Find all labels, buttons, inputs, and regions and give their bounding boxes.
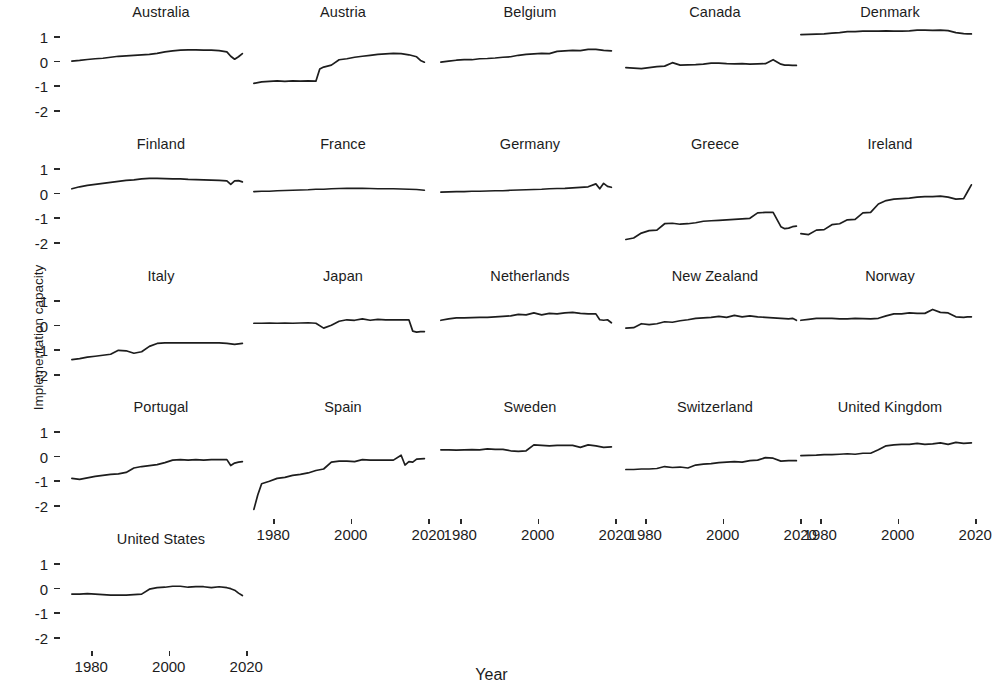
- panel-australia: Australia10-1-2: [68, 26, 254, 122]
- y-tick-label: 0: [20, 450, 48, 465]
- y-tick-label: 0: [20, 582, 48, 597]
- x-tick-label: 1980: [619, 527, 671, 542]
- plot-area: [68, 26, 254, 122]
- plot-area: [797, 290, 983, 386]
- plot-area: [437, 290, 623, 386]
- x-tick-mark: [91, 651, 93, 656]
- panel-italy: Italy10-1-2: [68, 290, 254, 386]
- x-tick-mark: [615, 519, 617, 524]
- panel-netherlands: Netherlands: [437, 290, 623, 386]
- plot-area: [797, 421, 983, 517]
- panel-title: Australia: [68, 4, 254, 20]
- series-line: [72, 460, 243, 480]
- y-tick-mark: [54, 505, 60, 507]
- panel-switzerland: Switzerland198020002020: [622, 421, 808, 517]
- panel-belgium: Belgium: [437, 26, 623, 122]
- plot-area: [250, 421, 436, 517]
- panel-greece: Greece: [622, 158, 808, 254]
- series-line: [254, 53, 425, 83]
- plot-area: [68, 158, 254, 254]
- x-tick-mark: [169, 651, 171, 656]
- series-line: [72, 178, 243, 188]
- plot-area: [797, 26, 983, 122]
- y-tick-mark: [54, 36, 60, 38]
- series-line: [72, 343, 243, 360]
- x-tick-mark: [820, 519, 822, 524]
- x-tick-mark: [723, 519, 725, 524]
- x-tick-mark: [645, 519, 647, 524]
- y-tick-mark: [54, 637, 60, 639]
- x-tick-label: 2020: [220, 659, 272, 674]
- y-tick-mark: [54, 374, 60, 376]
- y-tick-mark: [54, 217, 60, 219]
- panel-title: United States: [68, 531, 254, 547]
- x-tick-mark: [351, 519, 353, 524]
- y-tick-mark: [54, 612, 60, 614]
- panel-title: Norway: [797, 268, 983, 284]
- y-tick-label: 1: [20, 162, 48, 177]
- y-tick-label: -1: [20, 474, 48, 489]
- y-tick-mark: [54, 588, 60, 590]
- panel-title: Italy: [68, 268, 254, 284]
- plot-area: [622, 26, 808, 122]
- panel-austria: Austria: [250, 26, 436, 122]
- plot-area: [68, 290, 254, 386]
- y-tick-label: -1: [20, 79, 48, 94]
- y-tick-mark: [54, 85, 60, 87]
- panel-finland: Finland10-1-2: [68, 158, 254, 254]
- panel-title: France: [250, 136, 436, 152]
- panel-title: Germany: [437, 136, 623, 152]
- panel-title: Portugal: [68, 399, 254, 415]
- panel-title: Finland: [68, 136, 254, 152]
- series-line: [801, 309, 972, 320]
- panel-norway: Norway: [797, 290, 983, 386]
- panel-title: Japan: [250, 268, 436, 284]
- panel-title: Denmark: [797, 4, 983, 20]
- y-tick-mark: [54, 110, 60, 112]
- x-tick-label: 2000: [697, 527, 749, 542]
- x-tick-label: 2020: [949, 527, 996, 542]
- series-line: [441, 49, 612, 62]
- x-tick-label: 1980: [247, 527, 299, 542]
- y-tick-label: -1: [20, 211, 48, 226]
- y-tick-label: 0: [20, 319, 48, 334]
- series-line: [72, 50, 243, 61]
- plot-area: [437, 421, 623, 517]
- plot-area: [68, 553, 254, 649]
- x-tick-mark: [898, 519, 900, 524]
- x-tick-label: 2000: [143, 659, 195, 674]
- panel-title: Canada: [622, 4, 808, 20]
- series-line: [626, 315, 797, 328]
- series-line: [801, 30, 972, 34]
- x-tick-label: 2000: [872, 527, 924, 542]
- x-tick-mark: [975, 519, 977, 524]
- panel-united-kingdom: United Kingdom198020002020: [797, 421, 983, 517]
- panel-title: Switzerland: [622, 399, 808, 415]
- panel-spain: Spain198020002020: [250, 421, 436, 517]
- x-tick-mark: [246, 651, 248, 656]
- x-tick-label: 2000: [512, 527, 564, 542]
- panel-title: Sweden: [437, 399, 623, 415]
- x-tick-mark: [538, 519, 540, 524]
- y-tick-label: -1: [20, 343, 48, 358]
- y-tick-mark: [54, 325, 60, 327]
- plot-area: [250, 290, 436, 386]
- plot-area: [68, 421, 254, 517]
- y-tick-label: -2: [20, 236, 48, 251]
- panel-title: Spain: [250, 399, 436, 415]
- x-tick-label: 1980: [434, 527, 486, 542]
- y-tick-mark: [54, 168, 60, 170]
- y-tick-mark: [54, 431, 60, 433]
- plot-area: [622, 158, 808, 254]
- panel-title: New Zealand: [622, 268, 808, 284]
- x-tick-mark: [800, 519, 802, 524]
- y-tick-mark: [54, 193, 60, 195]
- series-line: [626, 212, 797, 239]
- y-axis-label: Implementation capacity: [31, 248, 46, 428]
- series-line: [254, 319, 425, 332]
- y-tick-label: 1: [20, 557, 48, 572]
- panel-canada: Canada: [622, 26, 808, 122]
- y-tick-mark: [54, 456, 60, 458]
- y-tick-label: 0: [20, 55, 48, 70]
